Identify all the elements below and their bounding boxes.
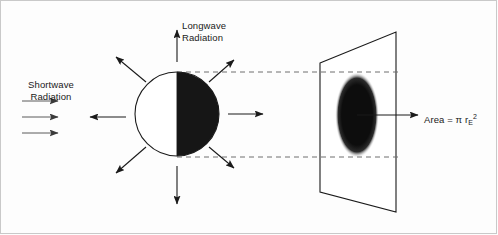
longwave-arrow-sw	[116, 147, 146, 173]
longwave-arrow-nw	[116, 57, 146, 82]
area-formula-prefix: Area =	[424, 114, 456, 125]
shortwave-label-line1: Shortwave	[14, 79, 88, 91]
area-formula-subscript: E	[468, 119, 473, 126]
longwave-arrow-ne	[209, 60, 234, 82]
shortwave-label-line2: Radiation	[14, 91, 88, 103]
longwave-label-line2: Radiation	[182, 32, 226, 44]
area-formula-superscript: 2	[473, 113, 477, 120]
longwave-arrow-se	[209, 147, 234, 168]
longwave-label-line1: Longwave	[182, 20, 226, 32]
longwave-radiation-label: Longwave Radiation	[182, 20, 226, 43]
radiation-diagram-figure: Longwave Radiation Shortwave Radiation A…	[0, 0, 498, 235]
shortwave-radiation-label: Shortwave Radiation	[14, 79, 88, 102]
area-formula-label: Area = π rE2	[424, 111, 477, 129]
